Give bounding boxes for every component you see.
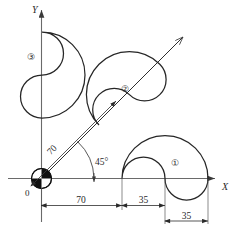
shape-1-badge: ① — [171, 158, 179, 168]
y-axis-label: Y — [32, 4, 39, 15]
dim-35-x-group: 35 — [122, 195, 165, 206]
origin-label: 0 — [25, 188, 30, 198]
shape-1-label: ① — [171, 158, 179, 168]
shape-3-cam — [21, 32, 86, 118]
dim-35-lower-group: 35 — [165, 211, 208, 222]
shape-2-badge: ② — [121, 84, 129, 94]
drawing-svg: 70 70 35 35 Y X 0 45° ① — [0, 0, 238, 232]
dim-70-ray-line — [31, 101, 116, 186]
technical-drawing-canvas: 70 70 35 35 Y X 0 45° ① — [0, 0, 238, 232]
ray-45-group — [38, 37, 183, 182]
shape-3-badge: ③ — [27, 52, 35, 62]
axis-group — [8, 10, 215, 222]
dim-35-lower-label: 35 — [182, 211, 192, 221]
shape-2-label: ② — [121, 84, 129, 94]
x-axis-label: X — [221, 181, 229, 192]
dim-70-x-label: 70 — [76, 195, 86, 205]
ray-45-line — [38, 37, 183, 182]
shape-3-label: ③ — [27, 52, 35, 62]
dim-70-ray-label: 70 — [45, 143, 59, 157]
dim-70-ray-group: 70 — [31, 101, 116, 186]
origin-marker — [32, 169, 52, 189]
dim-70-x-group: 70 — [42, 195, 123, 206]
angle-45-arc — [78, 142, 95, 179]
angle-45-label: 45° — [95, 157, 109, 167]
shape-3-outline — [21, 32, 86, 118]
dim-35-x-label: 35 — [139, 195, 149, 205]
